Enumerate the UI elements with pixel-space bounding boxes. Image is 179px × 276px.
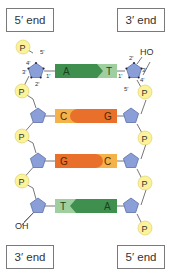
right-phosphates: P P P P (138, 85, 152, 235)
base-c-label: C (104, 156, 111, 167)
phosphate-icon: P (138, 176, 152, 190)
carbon-1-label: 1′ (46, 73, 51, 79)
base-pair-g-c: G C (55, 154, 117, 168)
base-c-label: C (60, 111, 67, 122)
deoxyribose-icon (30, 108, 45, 123)
deoxyribose-icon (126, 63, 141, 78)
base-g-label: G (60, 156, 68, 167)
svg-text:P: P (142, 88, 148, 98)
svg-text:P: P (20, 43, 26, 53)
carbon-2-label: 2′ (129, 55, 134, 61)
svg-text:P: P (19, 132, 25, 142)
svg-text:P: P (142, 179, 148, 189)
carbon-3-label: 3′ (22, 69, 27, 75)
deoxyribose-icon (30, 198, 45, 213)
deoxyribose-icon (123, 198, 138, 213)
hydroxyl-bottom-label: OH (15, 221, 29, 231)
phosphate-icon: P (138, 131, 152, 145)
carbon-4-label: 4′ (140, 77, 145, 83)
base-a-label: A (63, 66, 70, 77)
base-pair-a-t: A T (55, 64, 117, 78)
base-pair-c-g: C G (55, 109, 117, 123)
phosphate-icon: P (15, 174, 29, 188)
base-g-label: G (104, 111, 112, 122)
base-pair-t-a: T A (55, 199, 117, 213)
carbon-1-label: 1′ (118, 73, 123, 79)
svg-text:P: P (19, 87, 25, 97)
phosphate-icon: P (138, 85, 152, 99)
carbon-2-label: 2′ (35, 81, 40, 87)
dna-diagram: A T C G G C T A 5′ (0, 0, 179, 276)
deoxyribose-icon (30, 153, 45, 168)
hydroxyl-top-label: HO (140, 47, 154, 57)
phosphate-icon: P (15, 84, 29, 98)
svg-text:P: P (142, 224, 148, 234)
base-t-label: T (106, 66, 112, 77)
base-t-label: T (60, 201, 66, 212)
phosphate-icon: P (138, 221, 152, 235)
deoxyribose-icon (123, 108, 138, 123)
base-a-label: A (104, 201, 111, 212)
phosphate-icon: P (15, 129, 29, 143)
svg-text:P: P (142, 134, 148, 144)
carbon-4-label: 4′ (26, 60, 31, 66)
phosphate-icon: P (16, 40, 30, 54)
deoxyribose-icon (123, 153, 138, 168)
svg-text:P: P (19, 177, 25, 187)
carbon-5-label: 5′ (40, 49, 45, 55)
glycosidic-bonds (44, 71, 125, 206)
deoxyribose-icon (28, 63, 43, 78)
carbon-5-label: 5′ (124, 86, 129, 92)
